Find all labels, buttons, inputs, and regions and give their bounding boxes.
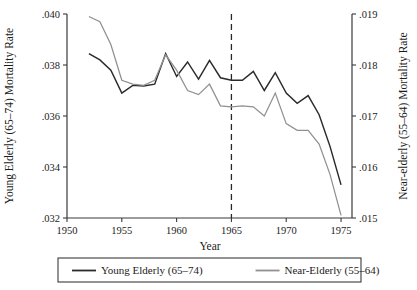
bottom-tick-label: 1965 bbox=[221, 225, 242, 236]
series-line bbox=[89, 54, 341, 185]
bottom-tick-label: 1960 bbox=[166, 225, 187, 236]
right-tick-label: .017 bbox=[359, 111, 377, 122]
chart-svg: .032.034.036.038.040 .015.016.017.018.01… bbox=[0, 0, 417, 290]
left-tick-label: .032 bbox=[42, 213, 60, 224]
legend-label: Near-Elderly (55–64) bbox=[285, 264, 380, 277]
bottom-tick-label: 1955 bbox=[111, 225, 132, 236]
chart-legend: Young Elderly (65–74)Near-Elderly (55–64… bbox=[58, 258, 380, 282]
right-axis-ticks: .015.016.017.018.019 bbox=[352, 9, 377, 224]
right-tick-label: .018 bbox=[359, 60, 377, 71]
right-tick-label: .015 bbox=[359, 213, 377, 224]
mortality-rate-chart: .032.034.036.038.040 .015.016.017.018.01… bbox=[0, 0, 417, 290]
right-axis-title: Near-elderly (55–64) Mortality Rate bbox=[397, 32, 410, 199]
plot-frame bbox=[67, 14, 352, 218]
series-line bbox=[89, 17, 341, 216]
left-tick-label: .038 bbox=[42, 60, 60, 71]
bottom-tick-label: 1975 bbox=[331, 225, 352, 236]
bottom-axis-ticks: 195019551960196519701975 bbox=[57, 218, 352, 236]
left-axis-ticks: .032.034.036.038.040 bbox=[42, 9, 67, 224]
right-tick-label: .019 bbox=[359, 9, 377, 20]
left-axis-title: Young Elderly (65–74) Mortality Rate bbox=[3, 28, 16, 204]
bottom-tick-label: 1970 bbox=[276, 225, 297, 236]
data-series-group bbox=[89, 17, 341, 216]
bottom-tick-label: 1950 bbox=[57, 225, 78, 236]
legend-label: Young Elderly (65–74) bbox=[101, 264, 203, 277]
left-tick-label: .040 bbox=[42, 9, 60, 20]
right-tick-label: .016 bbox=[359, 162, 377, 173]
x-axis-title: Year bbox=[199, 240, 220, 252]
left-tick-label: .034 bbox=[42, 162, 61, 173]
left-tick-label: .036 bbox=[42, 111, 60, 122]
